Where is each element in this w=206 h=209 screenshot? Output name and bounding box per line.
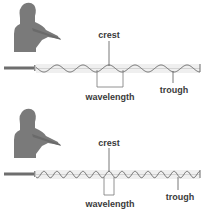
crest-label: crest [98, 138, 120, 148]
crest-label: crest [98, 30, 120, 40]
panel-low-frequency: crest wavelength trough [4, 3, 200, 102]
wavelength-label: wavelength [84, 199, 134, 209]
trough-label: trough [160, 85, 189, 95]
flute-tube [4, 173, 34, 176]
wave-diagram: crest wavelength trough crest wavelength… [0, 0, 206, 209]
flute-tube [4, 67, 34, 70]
flutist-silhouette-icon [14, 109, 61, 158]
panel-high-frequency: crest wavelength trough [4, 109, 200, 209]
wavelength-bracket [104, 177, 114, 195]
flutist-silhouette-icon [14, 3, 61, 52]
wavelength-label: wavelength [84, 92, 134, 102]
trough-label: trough [166, 192, 195, 202]
